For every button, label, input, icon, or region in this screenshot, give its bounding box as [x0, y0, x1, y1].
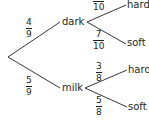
prob-milk-hard-denominator: 8 — [96, 74, 102, 83]
prob-dark-hard-denominator: 10 — [93, 3, 104, 12]
leaf-milk-soft: soft — [128, 102, 147, 112]
branch-root-dark — [8, 22, 60, 57]
prob-dark-denominator: 9 — [26, 30, 32, 39]
prob-milk: 5 9 — [26, 76, 32, 97]
prob-milk-numerator: 5 — [26, 76, 32, 85]
branch-root-milk — [8, 57, 60, 88]
leaf-dark-hard: hard — [127, 0, 149, 10]
prob-dark-soft-denominator: 10 — [93, 42, 104, 51]
branch-milk-hard — [85, 70, 127, 88]
prob-dark-soft-numerator: 7 — [96, 30, 102, 39]
prob-dark: 4 9 — [26, 18, 32, 39]
branch-milk-soft — [85, 88, 127, 107]
node-milk: milk — [62, 83, 83, 93]
leaf-dark-soft: soft — [127, 38, 146, 48]
prob-dark-numerator: 4 — [26, 18, 32, 27]
prob-milk-soft-denominator: 8 — [96, 108, 102, 117]
leaf-milk-hard: hard — [128, 65, 149, 75]
node-dark: dark — [62, 17, 84, 27]
prob-dark-hard: 3 10 — [93, 0, 104, 12]
prob-milk-soft-numerator: 5 — [96, 96, 102, 105]
prob-dark-soft: 7 10 — [93, 30, 104, 51]
prob-milk-hard: 3 8 — [96, 62, 102, 83]
prob-milk-denominator: 9 — [26, 88, 32, 97]
prob-milk-soft: 5 8 — [96, 96, 102, 117]
prob-milk-hard-numerator: 3 — [96, 62, 102, 71]
